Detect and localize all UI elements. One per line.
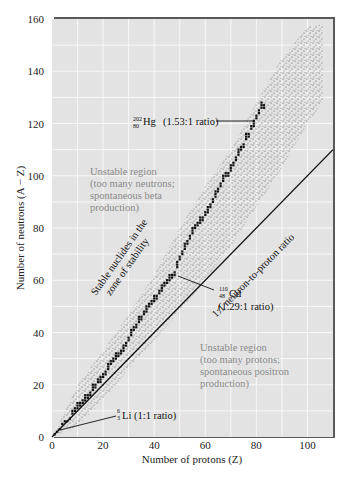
svg-text:6: 6 (117, 408, 120, 414)
svg-text:140: 140 (28, 65, 45, 77)
svg-text:20: 20 (33, 379, 45, 391)
nuclide-stability-chart: 020406080100 020406080100120140160 Numbe… (0, 0, 351, 481)
svg-text:spontaneous beta: spontaneous beta (90, 190, 162, 201)
svg-text:80: 80 (133, 123, 139, 129)
svg-text:Unstable region: Unstable region (200, 342, 268, 353)
svg-text:(1.29:1 ratio): (1.29:1 ratio) (218, 301, 274, 313)
svg-text:20: 20 (98, 439, 110, 451)
svg-text:0: 0 (49, 439, 55, 451)
svg-text:(1.53:1 ratio): (1.53:1 ratio) (163, 116, 219, 128)
svg-text:spontaneous positron: spontaneous positron (200, 366, 290, 377)
svg-text:Hg: Hg (143, 116, 157, 127)
svg-text:80: 80 (251, 439, 263, 451)
svg-text:60: 60 (33, 274, 45, 286)
svg-text:60: 60 (200, 439, 212, 451)
svg-text:Cd: Cd (229, 288, 242, 299)
svg-text:(too many neutrons;: (too many neutrons; (90, 178, 175, 190)
svg-text:80: 80 (33, 222, 45, 234)
svg-text:160: 160 (28, 13, 45, 25)
svg-text:(1:1 ratio): (1:1 ratio) (134, 410, 177, 422)
svg-text:Li: Li (122, 410, 131, 421)
svg-text:48: 48 (219, 293, 225, 299)
svg-text:40: 40 (33, 327, 45, 339)
svg-text:100: 100 (299, 439, 316, 451)
svg-text:100: 100 (28, 170, 45, 182)
y-axis-ticks: 020406080100120140160 (28, 13, 45, 443)
svg-text:202: 202 (133, 116, 142, 122)
svg-text:0: 0 (39, 431, 45, 443)
x-axis-label: Number of protons (Z) (142, 453, 243, 466)
svg-text:110: 110 (219, 286, 228, 292)
svg-text:120: 120 (28, 118, 45, 130)
x-axis-ticks: 020406080100 (49, 439, 316, 451)
svg-text:40: 40 (149, 439, 161, 451)
y-axis-label: Number of neutrons (A − Z) (14, 165, 27, 290)
svg-text:production): production) (90, 202, 139, 214)
svg-text:Unstable region: Unstable region (90, 166, 158, 177)
svg-text:production): production) (200, 378, 249, 390)
svg-text:(too many protons;: (too many protons; (200, 354, 280, 366)
li-annotation: 6 3 Li (1:1 ratio) (117, 408, 177, 422)
svg-text:3: 3 (117, 415, 120, 421)
